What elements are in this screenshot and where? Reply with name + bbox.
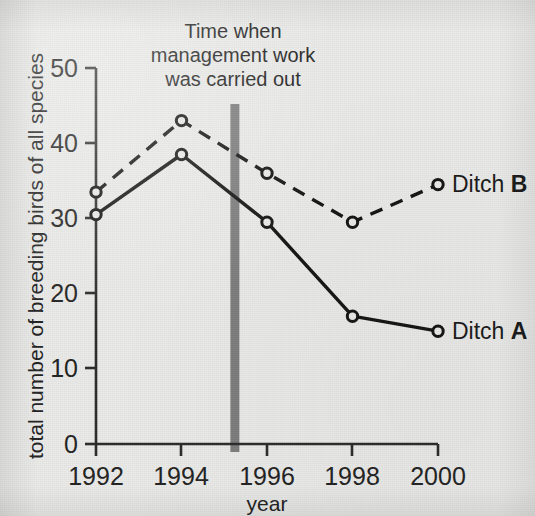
annotation-line-1: Time when	[184, 20, 281, 42]
ditch-b-label-text: Ditch	[452, 171, 511, 197]
data-point-marker	[262, 168, 272, 178]
data-point-marker	[347, 311, 357, 321]
y-tick-label-0: 0	[64, 430, 78, 458]
ditch-a-line	[96, 155, 438, 332]
ditch-a-label-text: Ditch	[452, 318, 511, 344]
y-tick-label-30: 30	[50, 204, 78, 232]
data-point-marker	[347, 217, 357, 227]
annotation-line-3: was carried out	[164, 68, 301, 90]
management-work-annotation: Time when management work was carried ou…	[151, 20, 317, 90]
ditch-b-markers	[91, 115, 443, 227]
data-point-marker	[176, 149, 186, 159]
x-tick-label-1994: 1994	[153, 462, 209, 490]
y-tick-label-50: 50	[50, 54, 78, 82]
x-tick-label-2000: 2000	[410, 462, 466, 490]
axis-group	[85, 68, 438, 456]
data-point-marker	[91, 187, 101, 197]
chart-figure: 50 40 30 20 10 0 1992 1994 1996 1998 200…	[0, 0, 535, 516]
data-point-marker	[262, 217, 272, 227]
data-point-marker	[433, 326, 443, 336]
y-tick-label-10: 10	[50, 354, 78, 382]
ditch-b-label: Ditch B	[452, 171, 527, 197]
y-tick-label-20: 20	[50, 279, 78, 307]
x-axis-title: year	[247, 492, 288, 515]
x-tick-label-1996: 1996	[239, 462, 295, 490]
line-chart-canvas: 50 40 30 20 10 0 1992 1994 1996 1998 200…	[0, 0, 535, 516]
y-axis-title: total number of breeding birds of all sp…	[24, 53, 47, 459]
annotation-line-2: management work	[151, 44, 317, 66]
data-point-marker	[176, 115, 186, 125]
x-tick-label-1992: 1992	[68, 462, 124, 490]
ditch-b-label-key: B	[511, 171, 528, 197]
data-point-marker	[91, 209, 101, 219]
series-ditch-b	[91, 115, 443, 227]
data-point-marker	[433, 179, 443, 189]
ditch-a-label-key: A	[511, 318, 528, 344]
x-tick-label-1998: 1998	[324, 462, 380, 490]
y-tick-label-40: 40	[50, 129, 78, 157]
ditch-a-label: Ditch A	[452, 318, 527, 344]
